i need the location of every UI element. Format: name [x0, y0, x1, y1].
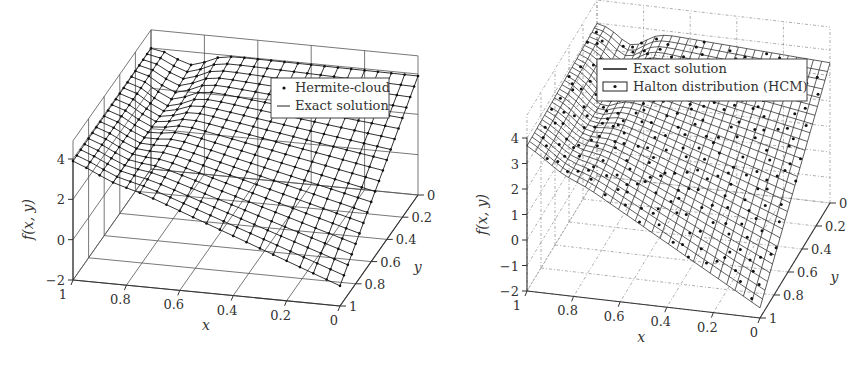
x-tick-label: 1 [59, 287, 67, 302]
x-tick-label: 1 [513, 298, 521, 313]
y-axis-label: y [413, 259, 423, 275]
y-tick-label: 0 [839, 196, 847, 211]
z-tick-label: −1 [500, 259, 519, 274]
y-tick-label: 1 [769, 311, 777, 326]
z-tick-label: 4 [57, 152, 65, 167]
box-grid [73, 30, 418, 306]
y-tick-label: 0.8 [365, 277, 386, 292]
y-tick-label: 0.4 [396, 232, 417, 247]
legend-item: Hermite-cloud [282, 80, 390, 95]
z-tick-label: 4 [511, 131, 519, 146]
y-tick-label: 0.6 [797, 265, 818, 280]
z-tick-label: 0 [511, 233, 519, 248]
x-axis-label: x [637, 329, 645, 345]
x-tick-label: 0.8 [557, 303, 578, 318]
legend-label: Hermite-cloud [295, 80, 390, 95]
legend: Exact solutionHalton distribution (HCM) [597, 59, 808, 101]
x-axis-label: x [202, 317, 210, 333]
z-tick-label: 0 [57, 233, 65, 248]
legend-label: Exact solution [633, 61, 727, 76]
z-tick-label: 3 [511, 157, 519, 172]
x-tick-label: 0.4 [217, 303, 238, 318]
z-tick-label: 2 [57, 192, 65, 207]
x-tick-label: 0.2 [270, 308, 291, 323]
right-surface-plot: 43210−1−210.80.60.40.2000.20.40.60.81xyf… [474, 0, 847, 345]
dot-marker-icon [282, 86, 285, 89]
legend: Hermite-cloudExact solution [271, 78, 390, 118]
figure-canvas: 420−210.80.60.40.2000.20.40.60.81xyf(x, … [0, 0, 858, 371]
y-tick-label: 0.6 [380, 255, 401, 270]
x-tick-label: 0.6 [163, 297, 184, 312]
legend-label: Exact solution [295, 98, 389, 113]
y-axis-label: y [830, 269, 840, 285]
y-tick-label: 1 [349, 299, 357, 314]
x-tick-label: 0 [330, 313, 338, 328]
x-tick-label: 0.8 [110, 292, 131, 307]
x-tick-label: 0.6 [604, 309, 625, 324]
x-tick-label: 0.2 [697, 320, 718, 335]
x-tick-label: 0 [750, 325, 758, 340]
y-tick-label: 0.2 [825, 219, 846, 234]
y-tick-label: 0 [427, 188, 435, 203]
legend-item: Halton distribution (HCM) [603, 79, 808, 94]
y-tick-label: 0.8 [783, 288, 804, 303]
y-tick-label: 0.2 [411, 210, 432, 225]
figure: 420−210.80.60.40.2000.20.40.60.81xyf(x, … [0, 0, 858, 371]
z-tick-label: 2 [511, 182, 519, 197]
z-tick-label: −2 [46, 273, 65, 288]
z-tick-label: −2 [500, 284, 519, 299]
y-tick-label: 0.4 [811, 242, 832, 257]
box-grid [527, 0, 830, 318]
x-tick-label: 0.4 [650, 314, 671, 329]
z-axis-label: f(x, y) [474, 194, 490, 236]
z-tick-label: 1 [511, 208, 519, 223]
left-surface-plot: 420−210.80.60.40.2000.20.40.60.81xyf(x, … [20, 30, 435, 333]
legend-label: Halton distribution (HCM) [633, 79, 808, 94]
z-axis-label: f(x, y) [20, 199, 36, 241]
